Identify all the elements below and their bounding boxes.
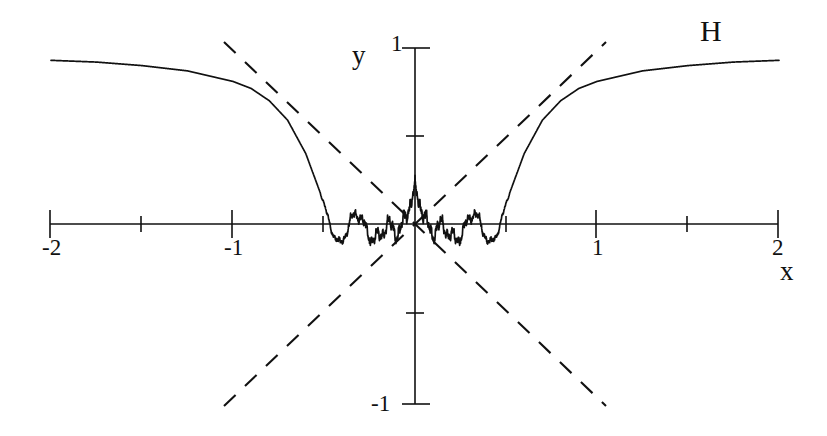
x-tick-label-neg1: -1 — [224, 236, 243, 259]
y-tick-label-neg1: -1 — [371, 392, 390, 415]
x-axis-label: x — [780, 258, 794, 285]
figure-canvas: -2 -1 1 2 1 -1 y x H — [0, 0, 827, 436]
plot-area — [0, 0, 827, 436]
x-tick-label-pos1: 1 — [592, 236, 604, 259]
y-tick-label-pos1: 1 — [391, 32, 403, 55]
x-tick-label-neg2: -2 — [42, 236, 61, 259]
curve-h-label: H — [700, 16, 722, 46]
y-axis-label: y — [352, 42, 366, 69]
